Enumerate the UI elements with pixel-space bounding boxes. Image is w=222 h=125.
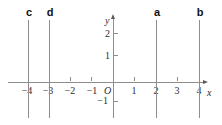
x-tick-label--3: −3 [39, 86, 57, 96]
x-tick-label-3: 3 [168, 86, 186, 96]
x-tick-mark [91, 77, 92, 81]
graph-line-label-b: b [193, 7, 207, 18]
x-tick-mark [134, 77, 135, 81]
graph-line-label-c: c [22, 7, 36, 18]
graph-line-c [28, 20, 29, 118]
y-tick-label--1: −1 [92, 96, 108, 106]
x-tick-label-1: 1 [125, 86, 143, 96]
y-axis-label: y [105, 16, 109, 26]
y-tick-mark [114, 33, 118, 34]
graph-line-d [49, 20, 50, 118]
x-tick-label--2: −2 [61, 86, 79, 96]
y-tick-mark [114, 55, 118, 56]
graph-line-a [156, 20, 157, 118]
graph-line-label-d: d [43, 7, 57, 18]
y-tick-label-1: 1 [94, 51, 110, 61]
y-axis-arrowhead [111, 14, 115, 19]
graph-line-b [199, 20, 200, 118]
x-axis-arrowhead [203, 80, 208, 84]
x-tick-mark [177, 77, 178, 81]
x-tick-label--4: −4 [18, 86, 36, 96]
x-axis [8, 82, 206, 83]
x-tick-mark [70, 77, 71, 81]
y-tick-mark [114, 101, 118, 102]
graph-line-label-a: a [150, 7, 164, 18]
coordinate-plane-figure: x y O −4 −3 −2 −1 1 2 3 4 2 1 −1 c d a b [0, 0, 222, 125]
y-tick-label-2: 2 [94, 29, 110, 39]
